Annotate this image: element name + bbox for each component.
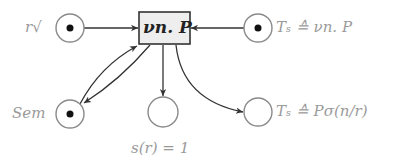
place-ts-top: [244, 14, 272, 42]
place-s-r: [148, 97, 178, 127]
transition-label: νn. P: [143, 19, 192, 36]
arc-transition-to-sem: [84, 45, 150, 103]
place-label-sem: Sem: [12, 106, 45, 121]
token-icon: [255, 25, 262, 32]
arc-transition-to-ts-bottom: [176, 45, 243, 112]
token-icon: [67, 25, 74, 32]
arc-sem-to-transition: [80, 46, 137, 104]
place-label-ts-top: Tₛ ≙ νn. P: [276, 20, 352, 35]
place-label-s-r: s(r) = 1: [131, 141, 189, 156]
place-label-ts-bottom: Tₛ ≙ Pσ(n/r): [276, 104, 368, 119]
place-sem: [56, 100, 84, 128]
token-icon: [67, 111, 74, 118]
place-r-check: [56, 14, 84, 42]
place-label-r-check: r√: [25, 20, 42, 35]
place-ts-bottom: [244, 98, 272, 126]
